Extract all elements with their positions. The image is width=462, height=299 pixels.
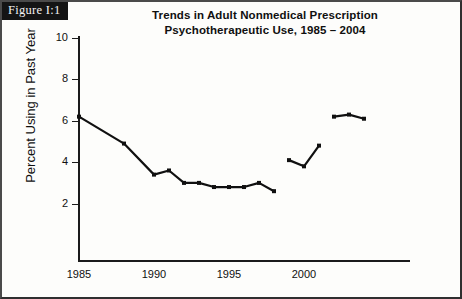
y-axis-tick-label: 2 [42,197,68,209]
figure-container: Figure I:1 Trends in Adult Nonmedical Pr… [0,0,462,299]
chart-title-line-1: Trends in Adult Nonmedical Prescription [80,8,450,23]
chart-title-line-2: Psychotherapeutic Use, 1985 – 2004 [80,23,450,38]
data-point-marker [272,189,276,193]
y-axis-tick-label: 4 [42,155,68,167]
x-axis-tick-label: 1990 [129,268,179,280]
data-point-marker [167,168,171,172]
data-point-marker [197,181,201,185]
x-axis-tick-label: 1985 [54,268,104,280]
data-point-marker [152,173,156,177]
data-point-marker [257,181,261,185]
data-point-marker [317,144,321,148]
series-line-2 [334,115,364,119]
data-point-marker [212,185,216,189]
y-axis-tick [72,162,78,163]
y-axis-tick [72,79,78,80]
figure-number-banner: Figure I:1 [2,2,68,20]
series-line-1 [289,146,319,167]
data-point-marker [287,158,291,162]
x-axis-tick-label: 1995 [204,268,254,280]
y-axis-tick [72,121,78,122]
x-axis-line [78,260,410,262]
series-line-0 [79,117,274,192]
data-point-marker [122,142,126,146]
data-point-marker [242,185,246,189]
y-axis-title: Percent Using in Past Year [23,6,38,206]
data-point-marker [332,115,336,119]
y-axis-tick-label: 6 [42,114,68,126]
chart-plot-lines [2,2,462,299]
y-axis-tick-label: 8 [42,72,68,84]
y-axis-tick [72,38,78,39]
y-axis-tick [72,204,78,205]
data-point-marker [362,117,366,121]
data-point-marker [182,181,186,185]
data-point-marker [227,185,231,189]
chart-title: Trends in Adult Nonmedical Prescription … [80,8,450,38]
data-point-marker [302,164,306,168]
y-axis-line [78,36,80,262]
y-axis-tick-label: 10 [42,31,68,43]
x-axis-tick-label: 2000 [279,268,329,280]
data-point-marker [347,113,351,117]
